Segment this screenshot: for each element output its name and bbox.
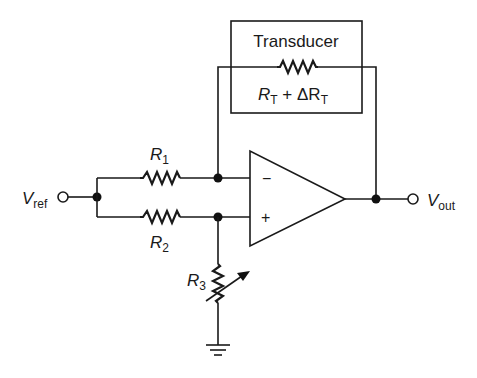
vout-terminal (408, 194, 418, 204)
r1-resistor-icon (140, 172, 180, 184)
r3-label: R3 (187, 271, 206, 293)
minus-junction-dot (214, 174, 223, 183)
opamp-plus-sign: + (261, 209, 270, 226)
vref-terminal (58, 192, 68, 202)
opamp-minus-sign: − (262, 170, 271, 187)
r1-label: R1 (150, 145, 169, 167)
output-junction-dot (372, 195, 381, 204)
r2-resistor-icon (140, 211, 180, 223)
r2-label: R2 (150, 233, 169, 255)
transducer-resistor-icon (277, 61, 318, 73)
vref-label: Vref (22, 189, 48, 211)
transducer-title: Transducer (253, 32, 339, 51)
vout-label: Vout (427, 191, 456, 213)
r3-arrow-head-icon (237, 271, 250, 281)
opamp-triangle (250, 151, 345, 246)
r3-variable-arrow-icon (206, 276, 242, 301)
ground-icon (206, 345, 230, 355)
transducer-resistance-label: RT + ΔRT (258, 85, 329, 107)
circuit-diagram: Transducer RT + ΔRT Vref R1 R2 − + Vout (0, 0, 477, 378)
r3-resistor-icon (213, 264, 223, 303)
